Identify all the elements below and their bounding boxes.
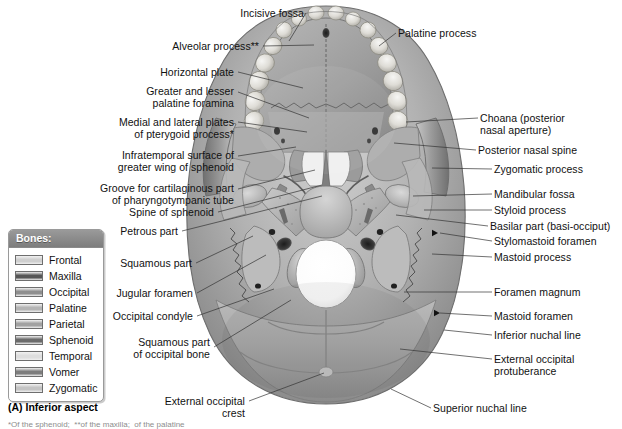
legend-label: Palatine <box>49 303 87 314</box>
legend-label: Zygomatic <box>49 383 97 394</box>
legend-swatch <box>15 319 43 329</box>
anatomy-label: Choana (posterior nasal aperture) <box>480 113 579 136</box>
legend-label: Temporal <box>49 351 92 362</box>
anatomy-label: Styloid process <box>494 205 579 217</box>
legend-item: Temporal <box>9 348 103 364</box>
figure-canvas: Incisive fossaAlveolar process**Horizont… <box>0 0 622 429</box>
legend-swatch <box>15 351 43 361</box>
legend-item: Maxilla <box>9 268 103 284</box>
legend-label: Maxilla <box>49 271 82 282</box>
legend-swatch <box>15 335 43 345</box>
anatomy-label: Squamous part <box>110 258 192 270</box>
anatomy-label: Palatine process <box>398 28 488 40</box>
figure-caption: (A) Inferior aspect <box>8 401 98 413</box>
legend-item: Sphenoid <box>9 332 103 348</box>
anatomy-label: Superior nuchal line <box>433 403 541 415</box>
anatomy-label: Inferior nuchal line <box>494 330 595 342</box>
anatomy-label: Squamous part of occipital bone <box>116 337 210 360</box>
stylomastoid-foramen-right <box>377 229 383 235</box>
bones-legend: Bones: FrontalMaxillaOccipitalPalatinePa… <box>8 229 104 402</box>
legend-item: Frontal <box>9 252 103 268</box>
legend-label: Frontal <box>49 255 82 266</box>
anatomy-label: Mandibular fossa <box>494 189 593 201</box>
legend-label: Sphenoid <box>49 335 93 346</box>
legend-swatch <box>15 383 43 393</box>
legend-item: Palatine <box>9 300 103 316</box>
basilar-part-basi-occiput <box>300 186 352 238</box>
figure-footnote: *Of the sphenoid; **of the maxilla; of t… <box>8 420 185 429</box>
anatomy-label: Posterior nasal spine <box>478 145 592 157</box>
anatomy-label: Stylomastoid foramen <box>494 236 618 248</box>
anatomy-label: Mastoid foramen <box>494 311 589 323</box>
anatomy-label: Medial and lateral plates of pterygoid p… <box>73 117 234 140</box>
legend-label: Parietal <box>49 319 85 330</box>
anatomy-label: Spine of sphenoid <box>113 207 214 219</box>
legend-items: FrontalMaxillaOccipitalPalatineParietalS… <box>9 248 103 401</box>
legend-swatch <box>15 287 43 297</box>
stylomastoid-foramen-left <box>269 229 275 235</box>
anatomy-label: Occipital condyle <box>105 311 193 323</box>
legend-swatch <box>15 271 43 281</box>
anatomy-label: Mastoid process <box>494 252 587 264</box>
mastoid-foramen-left <box>255 283 261 288</box>
legend-item: Vomer <box>9 364 103 380</box>
anatomy-label: External occipital protuberance <box>494 354 592 377</box>
anatomy-label: Horizontal plate <box>146 67 234 79</box>
legend-item: Zygomatic <box>9 380 103 396</box>
incisive-fossa <box>322 28 329 38</box>
legend-swatch <box>15 367 43 377</box>
anatomy-label: Alveolar process** <box>155 41 259 53</box>
legend-swatch <box>15 255 43 265</box>
shading-palate <box>256 66 396 174</box>
anatomy-label: Incisive fossa <box>222 8 304 20</box>
anatomy-label: Greater and lesser palatine foramina <box>110 86 234 109</box>
legend-label: Vomer <box>49 367 79 378</box>
legend-label: Occipital <box>49 287 89 298</box>
anatomy-label: Jugular foramen <box>107 288 193 300</box>
anatomy-label: Groove for cartilaginous part of pharyng… <box>39 183 234 206</box>
anatomy-label: Basilar part (basi-occiput) <box>490 221 621 233</box>
shading-occipital <box>222 282 430 398</box>
legend-item: Parietal <box>9 316 103 332</box>
legend-item: Occipital <box>9 284 103 300</box>
anatomy-label: Zygomatic process <box>494 164 597 176</box>
mastoid-foramen-right <box>391 283 397 288</box>
anatomy-label: External occipital crest <box>152 396 245 419</box>
legend-title: Bones: <box>9 230 103 248</box>
anatomy-label: Infratemporal surface of greater wing of… <box>67 150 234 173</box>
legend-swatch <box>15 303 43 313</box>
anatomy-label: Petrous part <box>109 226 178 238</box>
anatomy-label: Foramen magnum <box>494 287 599 299</box>
